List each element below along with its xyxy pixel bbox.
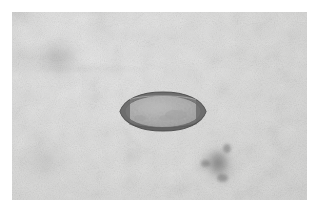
faint-patch-lower-left [20,140,72,180]
debris-fleck [223,144,231,153]
egg-polar-plug-right [196,101,206,122]
faint-patch-upper-left [36,34,82,80]
dark-debris-lower-right [197,140,241,188]
parasite-egg [118,91,208,132]
debris-fleck [217,174,228,182]
micrograph-alt-text: Grayscale light-microscopy image of a si… [0,0,1,1]
specimen-field [12,12,307,200]
micrograph-viewer: ovum Grayscale light-microscopy image of… [0,0,319,213]
debris-fleck [201,160,210,167]
specimen-label: ovum [0,0,1,1]
egg-polar-plug-left [120,101,130,122]
egg-interior-texture [118,91,208,132]
